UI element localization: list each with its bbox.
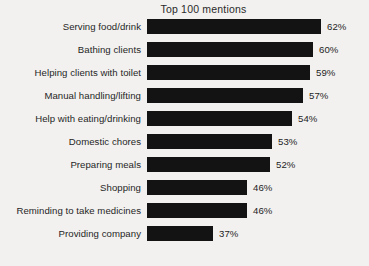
bar-fill: [147, 111, 292, 126]
bar-fill: [147, 157, 270, 172]
bar-track: 37%: [147, 226, 369, 241]
bar-track: 62%: [147, 19, 369, 34]
bar-value-label: 54%: [298, 111, 318, 126]
bar-value-label: 60%: [319, 42, 339, 57]
bar-track: 52%: [147, 157, 369, 172]
bar-track: 59%: [147, 65, 369, 80]
bar-category-label: Manual handling/lifting: [0, 88, 141, 103]
bar-fill: [147, 180, 247, 195]
bar-fill: [147, 19, 321, 34]
bar-row: Bathing clients60%: [0, 42, 369, 57]
bar-track: 57%: [147, 88, 369, 103]
bar-category-label: Shopping: [0, 180, 141, 195]
bar-category-label: Providing company: [0, 226, 141, 241]
bar-row: Preparing meals52%: [0, 157, 369, 172]
bar-list: Serving food/drink62%Bathing clients60%H…: [0, 19, 369, 249]
bar-fill: [147, 203, 247, 218]
bar-track: 53%: [147, 134, 369, 149]
bar-value-label: 53%: [278, 134, 298, 149]
bar-category-label: Domestic chores: [0, 134, 141, 149]
bar-fill: [147, 88, 303, 103]
bar-chart-figure: Top 100 mentions Serving food/drink62%Ba…: [0, 0, 369, 266]
bar-fill: [147, 134, 272, 149]
bar-row: Providing company37%: [0, 226, 369, 241]
bar-category-label: Reminding to take medicines: [0, 203, 141, 218]
bar-row: Domestic chores53%: [0, 134, 369, 149]
bar-track: 46%: [147, 180, 369, 195]
bar-row: Reminding to take medicines46%: [0, 203, 369, 218]
bar-row: Shopping46%: [0, 180, 369, 195]
bar-fill: [147, 65, 310, 80]
bar-value-label: 59%: [316, 65, 336, 80]
bar-row: Manual handling/lifting57%: [0, 88, 369, 103]
bar-category-label: Helping clients with toilet: [0, 65, 141, 80]
bar-category-label: Help with eating/drinking: [0, 111, 141, 126]
bar-track: 46%: [147, 203, 369, 218]
bar-value-label: 52%: [276, 157, 296, 172]
bar-fill: [147, 42, 313, 57]
bar-track: 54%: [147, 111, 369, 126]
bar-value-label: 57%: [309, 88, 329, 103]
bar-fill: [147, 226, 213, 241]
bar-category-label: Bathing clients: [0, 42, 141, 57]
bar-value-label: 37%: [219, 226, 239, 241]
bar-row: Helping clients with toilet59%: [0, 65, 369, 80]
bar-value-label: 62%: [327, 19, 347, 34]
bar-row: Help with eating/drinking54%: [0, 111, 369, 126]
bar-track: 60%: [147, 42, 369, 57]
bar-value-label: 46%: [253, 180, 273, 195]
bar-row: Serving food/drink62%: [0, 19, 369, 34]
bar-value-label: 46%: [253, 203, 273, 218]
chart-title: Top 100 mentions: [0, 3, 369, 15]
bar-category-label: Preparing meals: [0, 157, 141, 172]
bar-category-label: Serving food/drink: [0, 19, 141, 34]
